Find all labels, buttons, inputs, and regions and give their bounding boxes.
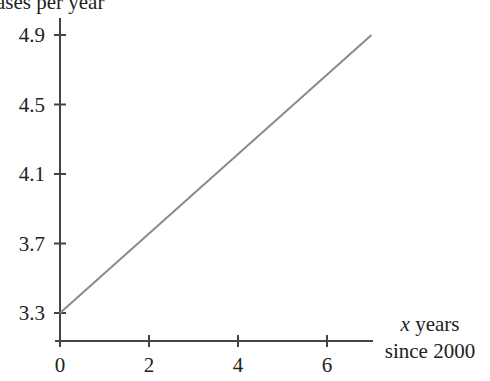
line-chart: ases per year 3.33.74.14.54.9 0246 x yea…	[0, 0, 490, 381]
y-ticks: 3.33.74.14.54.9	[19, 23, 66, 325]
x-tick-label: 0	[55, 353, 66, 377]
x-axis-title-rest: years	[410, 312, 460, 336]
x-tick-label: 4	[233, 353, 244, 377]
y-tick-label: 3.3	[19, 301, 45, 325]
x-tick-label: 2	[144, 353, 155, 377]
x-axis-title-line1: x years	[400, 312, 460, 336]
x-axis-title-line2: since 2000	[385, 339, 475, 363]
y-tick-label: 3.7	[19, 232, 45, 256]
x-tick-label: 6	[322, 353, 333, 377]
y-tick-label: 4.1	[19, 162, 45, 186]
y-tick-label: 4.9	[19, 23, 45, 47]
data-line	[60, 35, 372, 313]
y-tick-label: 4.5	[19, 93, 45, 117]
y-axis-title: ases per year	[0, 0, 104, 14]
